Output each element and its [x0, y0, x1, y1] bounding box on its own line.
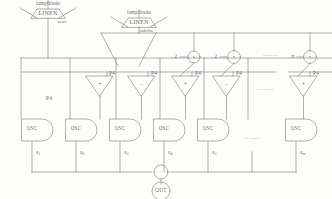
osc-1-label[interactable]: OSC — [27, 126, 38, 131]
linen-left-top-label: iamplitude — [36, 1, 60, 6]
p4-n-label: P4 — [313, 71, 319, 76]
linen-right-out-label: iadelta — [139, 29, 153, 34]
p4-n-sign: + — [302, 82, 305, 87]
mult-n-op: x — [309, 55, 312, 60]
mult-2-factor: 2 — [215, 54, 218, 59]
multn-out — [298, 63, 310, 76]
p4-4-sign: + — [184, 82, 187, 87]
diagram-canvas: iamplitude LINEN aenv iamplitude LINEN i… — [0, 0, 332, 199]
p4-1-label: P4 — [46, 96, 52, 101]
linen-right-top-label: iamplitude — [127, 10, 151, 15]
osc-3-out-label: a3 — [124, 150, 129, 156]
p4-5-sign: - — [226, 82, 228, 87]
output-label[interactable]: OUT — [155, 188, 166, 193]
mult-1-factor: 2 — [175, 54, 178, 59]
osc-2-out-label: a2 — [80, 150, 85, 156]
mult-n-factor: n — [292, 54, 295, 59]
ellipsis-mult-row: ...... — [263, 51, 279, 57]
osc-5-out-label: a5 — [212, 150, 217, 156]
p4-5-label: P4 — [236, 71, 242, 76]
mixer-op: + — [160, 170, 163, 175]
p4-2-sign: + — [98, 82, 101, 87]
p4-3-sign: - — [141, 82, 143, 87]
osc-3-label[interactable]: OSC — [115, 126, 126, 131]
ellipsis-adder-row: ...... — [258, 85, 274, 91]
osc-2-label[interactable]: OSC — [71, 126, 82, 131]
linen-left-out-label: aenv — [57, 20, 66, 25]
osc-n-label[interactable]: OSC — [291, 126, 302, 131]
osc-5-label[interactable]: OSC — [203, 126, 214, 131]
osc-1-out-label: a1 — [36, 150, 41, 156]
osc-4-out-label: a4 — [168, 150, 173, 156]
mult2-out — [221, 63, 234, 76]
mult-2-op: x — [233, 55, 236, 60]
osc-n-out-label: am — [300, 150, 306, 156]
p4-2-label: P4 — [109, 71, 115, 76]
p4-4-label: P4 — [195, 71, 201, 76]
mult-1-op: x — [193, 55, 196, 60]
ellipsis-osc-row: ...... — [244, 134, 260, 140]
osc-4-label[interactable]: OSC — [159, 126, 170, 131]
linen-right-block-label[interactable]: LINEN — [130, 19, 149, 25]
p4-3-label: P4 — [151, 71, 157, 76]
linen-left-block-label[interactable]: LINEN — [39, 10, 58, 16]
skew-feed-1 — [101, 33, 118, 66]
skew-feed-2 — [139, 33, 156, 66]
